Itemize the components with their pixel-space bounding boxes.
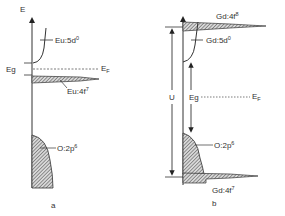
panel-b-caption: b <box>212 199 217 208</box>
eu-4f-band <box>32 76 99 83</box>
fermi-label: EF <box>101 64 110 74</box>
eu-4f-label: Eu:4f7 <box>67 86 89 96</box>
gd-4f7-band <box>183 173 258 183</box>
fermi-label-b: EF <box>252 92 261 102</box>
o-2p-band-b <box>183 133 204 174</box>
gd-4f8-label: Gd:4f8 <box>216 11 239 21</box>
eu-5d-label: Eu:5d0 <box>55 35 79 45</box>
eg-label: Eg <box>6 65 16 74</box>
gd-4f8-band <box>183 22 266 31</box>
gd-5d-label: Gd:5d0 <box>206 35 231 45</box>
o-2p-label-b: O:2p6 <box>214 140 234 150</box>
energy-level-diagram: E Eu:5d0 Eg EF Eu:4f7 O:2p6 a Gd:4f8 Gd:… <box>0 0 285 216</box>
o-2p-band <box>32 135 53 188</box>
o-2p-label: O:2p6 <box>57 143 77 153</box>
panel-a-caption: a <box>51 201 56 210</box>
eg-label-b: Eg <box>189 93 199 102</box>
u-label: U <box>169 93 175 102</box>
panel-a: E Eu:5d0 Eg EF Eu:4f7 O:2p6 a <box>6 5 110 210</box>
energy-axis-label: E <box>20 5 25 14</box>
eu-5d-band <box>33 28 46 63</box>
panel-b: Gd:4f8 Gd:5d0 U Eg EF O:2p6 Gd:4f7 b <box>165 11 266 208</box>
gd-4f7-label: Gd:4f7 <box>212 185 235 195</box>
